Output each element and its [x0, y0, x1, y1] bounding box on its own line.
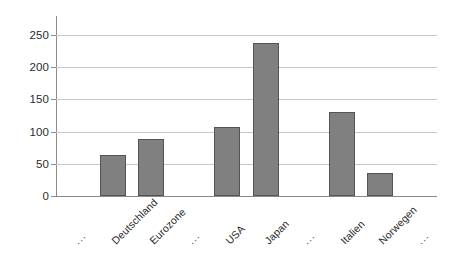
gridline: [56, 35, 437, 36]
plot-area: 250200150100500...DeutschlandEurozone...…: [56, 35, 437, 196]
bar: [253, 43, 279, 196]
x-axis-ellipsis-label: ...: [185, 229, 202, 246]
y-axis-tick-label: 150: [30, 93, 50, 105]
y-axis-tick-mark: [51, 132, 56, 133]
gridline: [56, 99, 437, 100]
y-axis-tick-label: 50: [36, 158, 49, 170]
y-axis-tick-mark: [51, 35, 56, 36]
bar: [100, 155, 126, 196]
y-axis-tick-label: 250: [30, 29, 50, 41]
x-axis-category-label: Norwegen: [376, 204, 419, 247]
x-axis-category-label: Eurozone: [147, 206, 188, 247]
bar: [138, 139, 164, 196]
y-axis-tick-label: 0: [43, 190, 50, 202]
gridline: [56, 67, 437, 68]
bar: [329, 112, 355, 196]
y-axis-tick-mark: [51, 196, 56, 197]
y-axis-tick-mark: [51, 67, 56, 68]
bar-chart-figure: 250200150100500...DeutschlandEurozone...…: [0, 0, 454, 261]
x-axis-category-label: Japan: [262, 217, 291, 246]
x-axis-ellipsis-label: ...: [414, 229, 431, 246]
y-axis-tick-mark: [51, 164, 56, 165]
y-axis-tick-label: 200: [30, 61, 50, 73]
bar: [367, 173, 393, 196]
axis-baseline: [56, 196, 437, 197]
gridline: [56, 132, 437, 133]
x-axis-category-label: Italien: [338, 218, 367, 247]
x-axis-ellipsis-label: ...: [300, 229, 317, 246]
x-axis-ellipsis-label: ...: [71, 229, 88, 246]
x-axis-category-label: USA: [223, 223, 247, 247]
y-axis-tick-label: 100: [30, 126, 50, 138]
bar: [214, 127, 240, 196]
y-axis-tick-mark: [51, 99, 56, 100]
